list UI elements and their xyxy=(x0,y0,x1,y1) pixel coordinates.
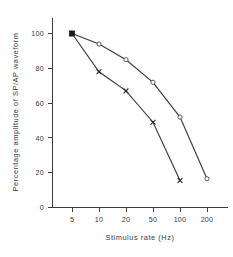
x-tick-label-5: 5 xyxy=(70,215,74,224)
y-tick-label-40: 40 xyxy=(36,134,45,143)
y-tick-label-20: 20 xyxy=(36,168,45,177)
data-point-upper-100 xyxy=(178,115,182,119)
y-axis-ticks xyxy=(48,34,53,208)
data-point-origin-marker xyxy=(69,31,74,36)
x-tick-label-10: 10 xyxy=(95,215,104,224)
x-tick-label-20: 20 xyxy=(122,215,131,224)
x-axis-title: Stimulus rate (Hz) xyxy=(105,233,174,242)
series-markers-lower-curve xyxy=(97,69,183,182)
data-point-lower-100 xyxy=(178,178,183,183)
series-markers-upper-curve xyxy=(97,42,209,181)
y-axis-title: Percentage amplitude of SP/AP waveform xyxy=(11,33,20,192)
y-axis-tick-labels: 100 80 60 40 20 0 xyxy=(31,29,44,212)
y-tick-label-80: 80 xyxy=(36,64,45,73)
data-point-upper-10 xyxy=(97,42,101,46)
data-point-upper-50 xyxy=(151,80,155,84)
data-point-upper-200 xyxy=(205,177,209,181)
y-tick-label-60: 60 xyxy=(36,99,45,108)
x-axis-tick-labels: 5 10 20 50 100 200 xyxy=(70,215,214,224)
x-tick-label-100: 100 xyxy=(174,215,187,224)
series-line-lower-curve xyxy=(72,34,180,181)
line-chart: 100 80 60 40 20 0 5 10 20 50 100 200 Sti… xyxy=(0,0,233,257)
axis-lines xyxy=(53,18,229,208)
x-tick-label-200: 200 xyxy=(201,215,214,224)
chart-figure: 100 80 60 40 20 0 5 10 20 50 100 200 Sti… xyxy=(0,0,233,257)
x-tick-label-50: 50 xyxy=(149,215,158,224)
data-point-upper-20 xyxy=(124,58,128,62)
y-tick-label-0: 0 xyxy=(40,203,44,212)
data-point-lower-50 xyxy=(151,120,156,125)
x-axis-ticks xyxy=(72,208,207,213)
y-tick-label-100: 100 xyxy=(31,29,44,38)
data-point-lower-10 xyxy=(97,69,102,74)
data-point-lower-20 xyxy=(124,89,129,94)
